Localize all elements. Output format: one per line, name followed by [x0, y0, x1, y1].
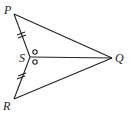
segment-pq [14, 14, 112, 58]
triangle-diagram: P S Q R [0, 0, 131, 114]
label-q: Q [115, 51, 124, 65]
label-r: R [2, 99, 11, 113]
angle-mark-psq [33, 50, 37, 54]
label-s: S [19, 51, 25, 65]
angle-mark-qsr [33, 60, 37, 64]
label-p: P [3, 3, 12, 17]
segment-sq [30, 57, 112, 58]
segment-qr [14, 58, 112, 99]
